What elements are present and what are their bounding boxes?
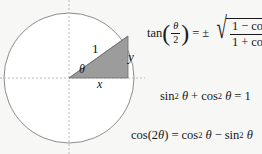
- tan-function-name: tan: [147, 27, 162, 40]
- equation-half-angle-tangent: tan ( θ 2 ) = ± √ 1−cos θ 1+cos θ: [147, 18, 262, 48]
- minus-sign: −: [212, 129, 225, 142]
- cosine-ratio-fraction: 1−cos θ 1+cos θ: [230, 20, 262, 48]
- radical-sign-icon: √: [217, 19, 227, 49]
- equation-double-angle-cosine: cos(2θ) = cos2 θ − sin2 θ: [131, 129, 253, 142]
- fraction-denominator: 2: [171, 33, 180, 45]
- plus-sign: +: [188, 90, 201, 103]
- theta-over-two-fraction: θ 2: [171, 21, 180, 45]
- cos-squared-name: cos: [181, 129, 198, 142]
- unit-circle-diagram: 1 θ x y: [0, 0, 145, 154]
- sin-argument: θ: [247, 129, 253, 142]
- equals-sign: =: [231, 90, 244, 103]
- radicand-denominator: 1+cos θ: [230, 34, 262, 49]
- cos-function-name: cos: [131, 129, 148, 142]
- plus-minus-sign: ±: [202, 27, 209, 40]
- fraction-numerator: θ: [171, 21, 180, 32]
- identity-result: 1: [244, 90, 250, 103]
- radicand-numerator: 1−cos θ: [230, 20, 262, 34]
- sin-function-name: sin: [160, 90, 175, 103]
- equals-sign: =: [168, 129, 181, 142]
- trigonometry-identities-figure: 1 θ x y tan ( θ 2 ) = ± √ 1−cos θ: [0, 0, 262, 154]
- angle-theta-label: θ: [79, 63, 85, 75]
- cos-function-name: cos: [201, 90, 218, 103]
- adjacent-side-label: x: [97, 78, 102, 90]
- equation-pythagorean-identity: sin2 θ + cos2 θ = 1: [160, 90, 251, 103]
- hypotenuse-label: 1: [92, 42, 99, 55]
- diagram-canvas: [0, 0, 145, 154]
- square-root-group: √ 1−cos θ 1+cos θ: [210, 18, 262, 48]
- sin-squared-name: sin: [225, 129, 240, 142]
- equals-sign: =: [189, 27, 202, 40]
- opposite-side-label: y: [128, 50, 134, 63]
- radicand: 1−cos θ 1+cos θ: [226, 18, 262, 48]
